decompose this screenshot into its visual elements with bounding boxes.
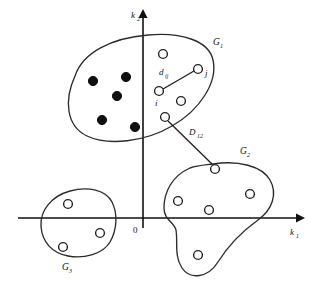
cluster-g2: G 2 [164,146,274,276]
y-axis-label-subscript: 2 [137,16,140,22]
cluster-g2-label-subscript: 2 [247,152,250,158]
cluster-g2-outline [164,163,274,276]
y-axis-label: k [131,10,136,20]
cluster-g3: G 3 [41,189,116,274]
cluster-g2-label: G [240,146,247,156]
cluster-g1-label: G [213,37,220,47]
distance-d-ij-label: d [159,67,164,77]
point-label-j: j [204,68,208,78]
node-open [177,97,186,106]
node-filled [121,72,130,81]
node-open [159,50,168,59]
node-open [96,229,105,238]
node-open [246,190,255,199]
cluster-g1: G 1 i j [68,34,223,141]
node-open [211,165,220,174]
node-open [174,197,183,206]
cluster-g3-label: G [62,262,69,272]
node-open [59,243,68,252]
node-open [194,251,203,260]
cluster-scatter-diagram: k 2 k 1 0 G 1 i j d [0,0,310,286]
x-axis-label: k [290,227,295,237]
node-filled [112,91,121,100]
node-filled [97,115,106,124]
node-filled [88,76,97,85]
x-axis-label-subscript: 1 [296,233,299,239]
distance-d-ij: d ij [159,67,194,89]
node-open [161,113,170,122]
cluster-g1-label-subscript: 1 [220,43,223,49]
node-open-j [194,65,203,74]
node-open [205,206,214,215]
node-open [64,200,73,209]
point-label-i: i [155,98,158,108]
node-filled [130,122,139,131]
cluster-g3-outline [41,189,116,257]
distance-d-12-label-subscript: 12 [197,133,203,139]
x-axis-arrow-icon [296,214,305,223]
figure-root: k 2 k 1 0 G 1 i j d [0,0,310,286]
distance-d-12: D 12 [168,121,213,165]
origin-label: 0 [133,225,138,235]
cluster-g1-outline [68,34,213,141]
distance-d-ij-label-subscript: ij [165,73,169,79]
distance-d-12-label: D [188,127,196,137]
cluster-g3-label-subscript: 3 [68,268,72,274]
node-open-i [155,87,164,96]
